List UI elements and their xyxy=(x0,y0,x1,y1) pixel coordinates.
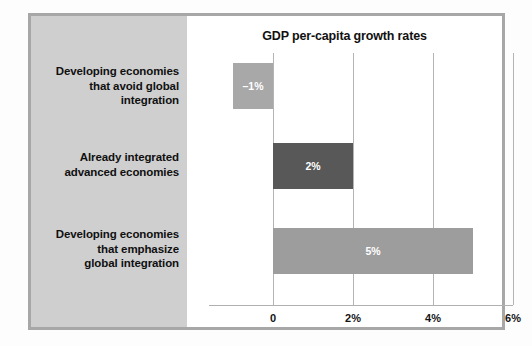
bar-value-label-0: –1% xyxy=(242,80,263,92)
bar-1: 2% xyxy=(273,143,353,189)
category-label-1-line-1: advanced economies xyxy=(33,165,179,180)
category-label-0-line-1: that avoid global xyxy=(33,79,179,94)
category-label-2-line-0: Developing economies xyxy=(33,227,179,242)
category-label-2-line-1: that emphasize xyxy=(33,242,179,257)
bar-value-label-1: 2% xyxy=(305,160,320,172)
chart-title: GDP per-capita growth rates xyxy=(187,29,502,43)
bar-value-label-2: 5% xyxy=(365,245,380,257)
chart-frame: Developing economies that avoid global i… xyxy=(28,13,505,330)
x-axis-line xyxy=(209,305,513,306)
category-label-1-line-0: Already integrated xyxy=(33,150,179,165)
x-tick-label-3: 6% xyxy=(493,312,532,324)
category-label-1: Already integrated advanced economies xyxy=(33,150,179,179)
x-tick-label-0: 0 xyxy=(253,312,293,324)
category-label-0-line-0: Developing economies xyxy=(33,64,179,79)
category-label-2: Developing economies that emphasize glob… xyxy=(33,227,179,271)
category-label-panel: Developing economies that avoid global i… xyxy=(31,16,187,327)
category-label-2-line-2: global integration xyxy=(33,256,179,271)
x-tick-label-2: 4% xyxy=(413,312,453,324)
x-tick-label-1: 2% xyxy=(333,312,373,324)
gridline-3 xyxy=(513,53,514,305)
plot-area: GDP per-capita growth rates 02%4%6% –1%2… xyxy=(187,16,502,327)
chart-figure: Developing economies that avoid global i… xyxy=(0,0,532,346)
category-label-0: Developing economies that avoid global i… xyxy=(33,64,179,108)
bar-0: –1% xyxy=(233,63,273,109)
bar-2: 5% xyxy=(273,228,473,274)
category-label-0-line-2: integration xyxy=(33,93,179,108)
